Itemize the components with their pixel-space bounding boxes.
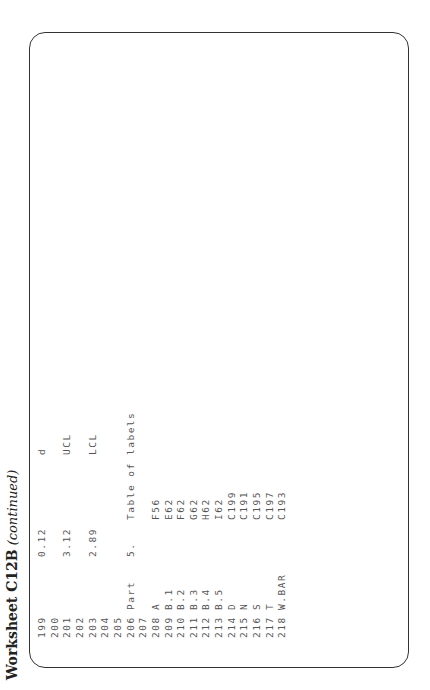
- name-cell: LCL: [87, 433, 100, 455]
- listing-line: 211B.3G62: [188, 0, 201, 690]
- listing-line: 209B.1E62: [163, 0, 176, 690]
- label-cell: B.5: [213, 588, 226, 610]
- ref-cell: Table of labels: [125, 412, 138, 520]
- line-number: 205: [112, 616, 125, 638]
- ref-cell: C197: [264, 491, 277, 520]
- line-number: 203: [87, 616, 100, 638]
- listing-line: 214DC199: [226, 0, 239, 690]
- line-number: 211: [188, 616, 201, 638]
- label-cell: S: [251, 603, 264, 610]
- listing-line: 202: [74, 0, 87, 690]
- line-number: 199: [36, 616, 49, 638]
- line-number: 201: [61, 616, 74, 638]
- listing-line: 204: [99, 0, 112, 690]
- listing-line: 212B.4H62: [200, 0, 213, 690]
- worksheet-title-continued: (continued): [5, 470, 20, 546]
- listing-line: 217TC197: [264, 0, 277, 690]
- value-cell: 2.89: [87, 528, 100, 557]
- label-cell: T: [264, 603, 277, 610]
- line-number: 216: [251, 616, 264, 638]
- label-cell: B.1: [163, 588, 176, 610]
- name-cell: d: [36, 448, 49, 455]
- line-number: 209: [163, 616, 176, 638]
- line-number: 218: [276, 616, 289, 638]
- listing-line: 210B.2F62: [175, 0, 188, 690]
- listing-line: 208AF56: [150, 0, 163, 690]
- ref-cell: C195: [251, 491, 264, 520]
- value-cell: 0.12: [36, 528, 49, 557]
- listing-line: 200: [49, 0, 62, 690]
- listing-line: 1990.12d: [36, 0, 49, 690]
- listing-line: 2032.89LCL: [87, 0, 100, 690]
- label-cell: N: [238, 603, 251, 610]
- worksheet-title-main: Worksheet C12B: [4, 549, 20, 680]
- listing-line: 205: [112, 0, 125, 690]
- label-cell: B.3: [188, 588, 201, 610]
- listing-line: 216SC195: [251, 0, 264, 690]
- listing-line: 213B.5I62: [213, 0, 226, 690]
- listing-line: 218W.BARC193: [276, 0, 289, 690]
- name-cell: UCL: [61, 433, 74, 455]
- line-number: 206: [125, 616, 138, 638]
- listing-line: 215NC191: [238, 0, 251, 690]
- worksheet-title: Worksheet C12B(continued): [4, 470, 20, 680]
- rotated-page: Worksheet C12B(continued) 1990.12d200201…: [0, 0, 430, 690]
- listing-line: 207: [137, 0, 150, 690]
- ref-cell: G62: [188, 498, 201, 520]
- line-number: 208: [150, 616, 163, 638]
- ref-cell: H62: [200, 498, 213, 520]
- ref-cell: E62: [163, 498, 176, 520]
- ref-cell: C193: [276, 491, 289, 520]
- label-cell: D: [226, 603, 239, 610]
- ref-cell: I62: [213, 498, 226, 520]
- line-number: 210: [175, 616, 188, 638]
- line-number: 213: [213, 616, 226, 638]
- line-number: 207: [137, 616, 150, 638]
- label-cell: W.BAR: [276, 574, 289, 610]
- listing-line: 2013.12UCL: [61, 0, 74, 690]
- ref-cell: C199: [226, 491, 239, 520]
- line-number: 204: [99, 616, 112, 638]
- line-number: 202: [74, 616, 87, 638]
- ref-cell: F62: [175, 498, 188, 520]
- line-number: 217: [264, 616, 277, 638]
- line-number: 200: [49, 616, 62, 638]
- label-cell: B.4: [200, 588, 213, 610]
- ref-cell: C191: [238, 491, 251, 520]
- ref-cell: F56: [150, 498, 163, 520]
- value-cell: 5.: [125, 543, 138, 557]
- line-number: 212: [200, 616, 213, 638]
- label-cell: A: [150, 603, 163, 610]
- line-number: 214: [226, 616, 239, 638]
- value-cell: 3.12: [61, 528, 74, 557]
- label-cell: B.2: [175, 588, 188, 610]
- listing-line: 206Part5.Table of labels: [125, 0, 138, 690]
- label-cell: Part: [125, 581, 138, 610]
- line-number: 215: [238, 616, 251, 638]
